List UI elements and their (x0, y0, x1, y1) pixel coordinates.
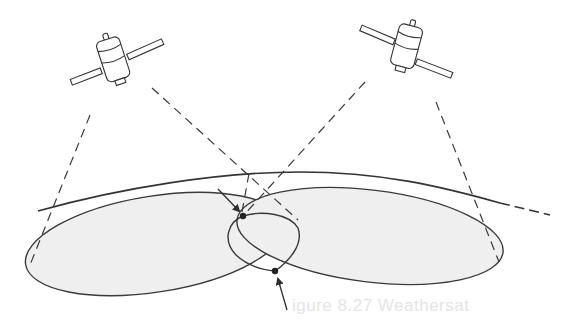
right-satellite-icon (352, 7, 463, 84)
bleed-through-caption: igure 8.27 Weathersat (292, 296, 469, 316)
right-footprint (231, 174, 508, 298)
satellite-coverage-diagram (0, 0, 571, 330)
lower-arrow-icon (278, 279, 287, 310)
lower-intersection-point (272, 268, 278, 274)
upper-intersection-point (240, 213, 246, 219)
left-satellite-icon (60, 17, 171, 98)
